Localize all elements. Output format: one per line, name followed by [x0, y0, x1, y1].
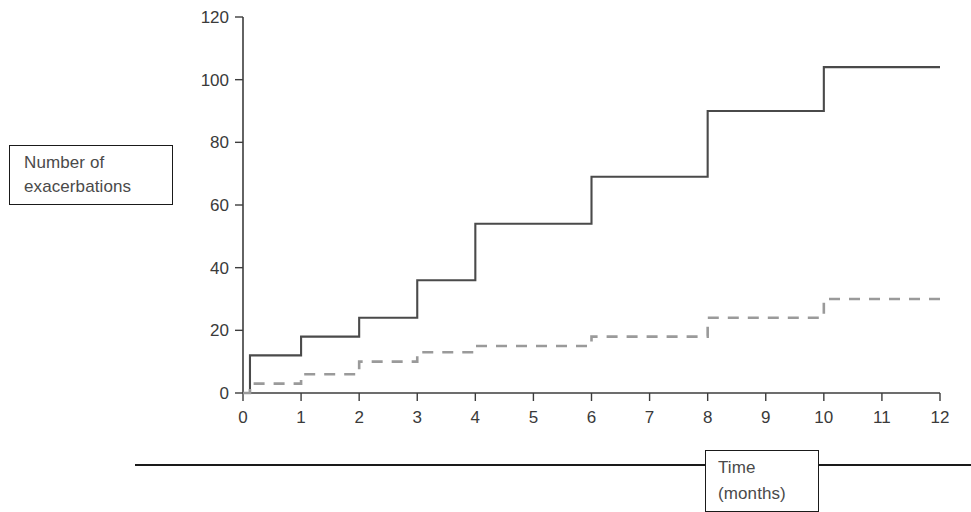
x-axis-caption-box: Time (months)	[705, 450, 819, 512]
chart-series	[243, 67, 940, 393]
x-axis-tick-label: 4	[471, 408, 480, 427]
y-axis-tick-label: 0	[220, 384, 229, 403]
y-axis-tick-label: 40	[210, 259, 229, 278]
y-axis-tick-label: 20	[210, 321, 229, 340]
y-axis-tick-label: 100	[201, 71, 229, 90]
y-axis-tick-label: 60	[210, 196, 229, 215]
x-axis-tick-label: 6	[587, 408, 596, 427]
x-axis-caption-line-2: (months)	[718, 481, 806, 507]
x-axis-tick-label: 0	[238, 408, 247, 427]
bottom-horizontal-rule	[135, 464, 971, 466]
x-axis-tick-label: 8	[703, 408, 712, 427]
x-axis-tick-label: 5	[529, 408, 538, 427]
x-axis-tick-label: 11	[873, 408, 891, 427]
x-axis-tick-label: 9	[761, 408, 770, 427]
x-axis-tick-label: 7	[645, 408, 654, 427]
series-upper-step-curve	[243, 67, 940, 393]
x-axis-tick-label: 12	[931, 408, 950, 427]
x-axis-tick-label: 3	[413, 408, 422, 427]
x-axis-tick-label: 10	[814, 408, 833, 427]
y-axis-tick-label: 80	[210, 133, 229, 152]
series-lower-step-curve	[243, 299, 940, 393]
y-axis-tick-label: 120	[201, 8, 229, 27]
x-axis-tick-label: 2	[354, 408, 363, 427]
x-axis-tick-label: 1	[296, 408, 305, 427]
chart-axes: 0204060801001200123456789101112	[201, 8, 950, 427]
x-axis-caption-line-1: Time	[718, 455, 806, 481]
